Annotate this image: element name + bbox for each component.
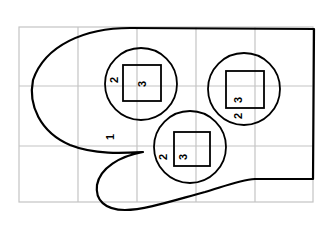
circle-shape [208, 53, 280, 125]
square-label: 3 [232, 97, 244, 103]
circle-label: 2 [108, 77, 120, 83]
square-label: 3 [177, 154, 189, 160]
circle-shape [154, 111, 226, 183]
mitten-label: 1 [104, 134, 116, 140]
square-label: 3 [136, 81, 148, 87]
circle-label: 2 [157, 154, 169, 160]
mitten-outline [32, 28, 314, 210]
circle-1: 2 3 [105, 48, 177, 120]
circle-3: 2 3 [154, 111, 226, 183]
circle-label: 2 [232, 113, 244, 119]
mitten-diagram: 2 3 3 2 2 3 1 [0, 0, 333, 230]
circle-2: 3 2 [208, 53, 280, 125]
